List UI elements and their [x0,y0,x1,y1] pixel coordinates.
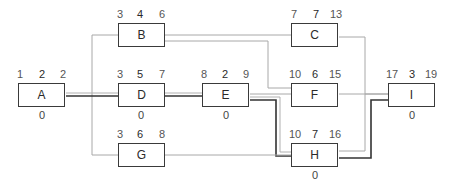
node-d-box: D [118,83,165,107]
edge-h-i-outer [339,94,365,151]
node-d-early-start: 3 [117,69,123,80]
node-i-early-finish: 19 [425,69,437,80]
node-f-box: F [291,83,338,107]
node-c-duration: 7 [313,9,319,20]
node-a-box: A [18,83,65,107]
node-g-early-start: 3 [117,129,123,140]
node-g-box: G [118,143,165,167]
node-a-early-finish: 2 [60,69,66,80]
edge-e-h-critical [250,100,291,156]
node-e-early-finish: 9 [243,69,249,80]
node-f-duration: 6 [312,69,318,80]
edge-a-g [92,95,118,155]
node-e-slack: 0 [223,110,229,121]
node-i-slack: 0 [409,110,415,121]
node-c-box: C [291,23,338,47]
node-a-duration: 2 [39,69,45,80]
node-h-early-start: 10 [289,129,301,140]
node-i-early-start: 17 [386,69,398,80]
node-h-early-finish: 16 [329,129,341,140]
network-diagram: 1 2 2 A 0 3 4 6 B 7 7 13 C 3 5 7 D 0 8 2… [0,0,449,182]
node-c-early-start: 7 [291,9,297,20]
node-g-early-finish: 8 [159,129,165,140]
node-b-duration: 4 [137,9,143,20]
node-i-duration: 3 [409,69,415,80]
node-d-early-finish: 7 [159,69,165,80]
node-f-early-finish: 15 [329,69,341,80]
edge-a-b [92,35,118,95]
node-d-slack: 0 [138,110,144,121]
node-h-slack: 0 [312,170,318,181]
edge-e-h-outer [250,97,291,152]
edge-c-i [339,37,388,94]
edge-b-f [165,41,291,88]
node-h-box: H [291,143,338,167]
node-f-early-start: 10 [289,69,301,80]
node-b-early-finish: 6 [159,9,165,20]
node-e-duration: 2 [222,69,228,80]
node-a-slack: 0 [39,110,45,121]
node-b-box: B [118,23,165,47]
node-e-box: E [202,83,249,107]
node-e-early-start: 8 [201,69,207,80]
node-i-box: I [388,83,435,107]
node-b-early-start: 3 [117,9,123,20]
node-d-duration: 5 [137,69,143,80]
node-c-early-finish: 13 [330,9,342,20]
node-h-duration: 7 [312,129,318,140]
node-g-duration: 6 [137,129,143,140]
edge-h-i-critical [339,100,388,158]
node-a-early-start: 1 [17,69,23,80]
